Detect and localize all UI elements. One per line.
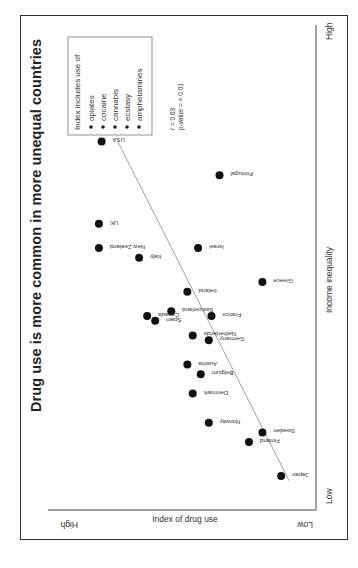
- point-label: Germany: [220, 336, 245, 342]
- data-point-japan: Japan: [277, 472, 308, 480]
- point-label: New Zealand: [110, 244, 145, 250]
- point-marker: [194, 244, 202, 252]
- point-label: Switzerland: [182, 307, 213, 313]
- legend-item-opiates: opiates: [87, 95, 96, 121]
- point-marker: [98, 137, 106, 145]
- point-marker: [143, 312, 151, 320]
- legend-item-amphetamines: amphetamines: [135, 69, 144, 121]
- legend-bullet-icon: [125, 125, 129, 129]
- point-marker: [207, 312, 215, 320]
- data-point-israel: Israel: [194, 244, 224, 252]
- point-label: Japan: [292, 472, 308, 478]
- point-label: USA: [113, 137, 125, 143]
- legend-bullet-icon: [137, 125, 141, 129]
- data-point-portugal: Portugal: [216, 171, 253, 179]
- data-point-greece: Greece: [258, 278, 293, 286]
- data-points: USAUKNew ZealandItalyPortugalIsraelGreec…: [95, 137, 309, 480]
- point-label: UK: [110, 220, 118, 226]
- point-marker: [258, 428, 266, 436]
- point-label: Sweden: [273, 428, 295, 434]
- chart-rotated-container: Drug use is more common in more unequal …: [20, 15, 348, 540]
- legend-bullet-icon: [101, 125, 105, 129]
- point-marker: [216, 171, 224, 179]
- data-point-denmark: Denmark: [189, 390, 228, 398]
- x-tick-low: Low: [324, 488, 334, 504]
- point-marker: [135, 254, 143, 262]
- scatter-plot: Index includes use of opiatescocainecann…: [20, 15, 348, 540]
- data-point-usa: USA: [98, 137, 125, 145]
- legend: Index includes use of opiatescocainecann…: [68, 37, 152, 135]
- data-point-italy: Italy: [135, 254, 161, 262]
- data-point-spain: Spain: [151, 317, 181, 325]
- r-value: r = 0.63: [169, 107, 176, 130]
- data-point-finland: Finland: [245, 438, 280, 446]
- data-point-sweden: Sweden: [258, 428, 295, 436]
- data-point-belgium: Belgium: [197, 370, 234, 378]
- point-marker: [183, 288, 191, 296]
- point-label: Israel: [209, 244, 224, 250]
- p-value: p-value = < 0.01: [177, 83, 185, 130]
- point-marker: [258, 278, 266, 286]
- point-marker: [95, 220, 103, 228]
- point-marker: [277, 472, 285, 480]
- point-label: Ireland: [198, 288, 216, 294]
- x-tick-high: High: [324, 22, 334, 40]
- point-marker: [205, 419, 213, 427]
- point-marker: [95, 244, 103, 252]
- point-label: Austria: [198, 361, 217, 367]
- y-axis-label: Index of drug use: [152, 514, 218, 524]
- legend-item-ecstasy: ecstasy: [123, 94, 132, 121]
- point-label: Denmark: [203, 390, 228, 396]
- data-point-austria: Austria: [183, 361, 217, 369]
- y-tick-low: Low: [297, 520, 313, 530]
- legend-item-cannabis: cannabis: [111, 89, 120, 121]
- point-label: Finland: [260, 438, 280, 444]
- legend-title: Index includes use of: [73, 54, 82, 130]
- data-point-ireland: Ireland: [183, 288, 216, 296]
- data-point-norway: Norway: [205, 419, 240, 427]
- legend-bullet-icon: [89, 125, 93, 129]
- point-label: Italy: [150, 254, 161, 260]
- point-marker: [151, 317, 159, 325]
- point-label: Norway: [220, 419, 240, 425]
- point-marker: [197, 370, 205, 378]
- legend-bullet-icon: [113, 125, 117, 129]
- point-marker: [205, 336, 213, 344]
- data-point-germany: Germany: [205, 336, 245, 344]
- point-marker: [183, 361, 191, 369]
- point-label: Belgium: [212, 370, 234, 376]
- legend-item-cocaine: cocaine: [99, 93, 108, 121]
- point-label: Portugal: [231, 171, 253, 177]
- data-point-france: France: [207, 312, 241, 320]
- y-tick-high: High: [60, 520, 78, 530]
- point-label: Greece: [273, 278, 293, 284]
- point-marker: [245, 438, 253, 446]
- data-point-new-zealand: New Zealand: [95, 244, 145, 252]
- point-marker: [189, 390, 197, 398]
- point-label: France: [222, 312, 241, 318]
- point-label: Spain: [166, 317, 181, 323]
- data-point-uk: UK: [95, 220, 118, 228]
- point-marker: [189, 331, 197, 339]
- x-axis-label: Income inequality: [324, 246, 334, 313]
